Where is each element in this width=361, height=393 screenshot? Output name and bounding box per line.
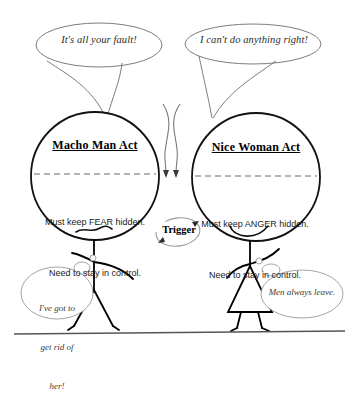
energy-line-left — [163, 104, 169, 176]
speech-bubble-top-right-tail-b — [213, 61, 276, 118]
thought-bubble-bottom-right-text: Men always leave. — [256, 286, 348, 299]
speech-bubble-top-left-tail-b — [107, 63, 122, 118]
energy-line-right — [174, 104, 180, 176]
nice-woman-body-line-2: Need to stay in control. — [188, 267, 322, 284]
macho-man-body-line-1: Must keep FEAR hidden. — [36, 214, 154, 231]
bottom-left-bubble-line-2: get rid of — [24, 341, 90, 354]
thought-bubble-bottom-left-text: I've got to get rid of her! — [24, 276, 90, 393]
bottom-left-bubble-line-3: her! — [24, 380, 90, 393]
female-foot-left — [231, 328, 237, 331]
nice-woman-act-title: Nice Woman Act — [190, 140, 322, 155]
energy-arrow-left — [163, 170, 169, 178]
bottom-left-bubble-line-1: I've got to — [24, 302, 90, 315]
crossing-energy-lines — [163, 104, 180, 178]
speech-bubble-top-left-tail-a — [47, 61, 106, 118]
energy-arrow-right — [173, 170, 179, 178]
female-foot-right — [262, 328, 269, 331]
macho-man-act-title: Macho Man Act — [36, 138, 154, 153]
trigger-label: Trigger — [148, 223, 210, 236]
speech-bubble-top-left-text: It's all your fault! — [36, 33, 162, 46]
male-foot-right — [113, 326, 119, 330]
speech-bubble-top-right-tail-a — [199, 56, 212, 118]
speech-bubble-top-right-text: I can't do anything right! — [184, 33, 324, 46]
